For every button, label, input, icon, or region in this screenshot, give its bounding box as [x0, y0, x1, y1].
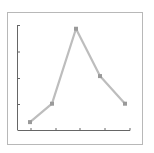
data-point-marker — [74, 27, 78, 31]
data-point-marker — [123, 102, 127, 106]
series-line — [30, 29, 125, 122]
data-point-marker — [50, 102, 54, 106]
y-axis — [18, 25, 21, 130]
line-chart — [0, 0, 154, 153]
data-series — [28, 27, 127, 124]
data-point-marker — [98, 74, 102, 78]
data-point-marker — [28, 120, 32, 124]
x-axis — [18, 128, 131, 131]
